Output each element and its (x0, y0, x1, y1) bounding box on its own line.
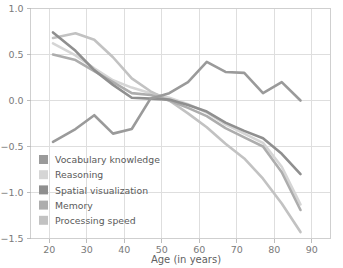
legend-swatch-vocabulary-knowledge (39, 155, 48, 164)
legend-label-spatial-visualization: Spatial visualization (55, 185, 148, 196)
x-tick-label: 30 (81, 244, 93, 255)
y-tick-label: −0.5 (0, 141, 23, 152)
x-tick-label: 70 (231, 244, 243, 255)
y-tick-label: −1.0 (0, 187, 23, 198)
x-axis-title: Age (in years) (151, 254, 221, 265)
x-tick-label: 50 (156, 244, 168, 255)
y-tick-label: 1.0 (8, 3, 23, 14)
legend-label-vocabulary-knowledge: Vocabulary knowledge (55, 154, 160, 165)
x-tick-label: 60 (193, 244, 205, 255)
x-tick-label: 80 (268, 244, 280, 255)
x-tick-label: 40 (118, 244, 130, 255)
legend-swatch-processing-speed (39, 216, 48, 225)
legend-label-reasoning: Reasoning (55, 169, 103, 180)
legend-label-processing-speed: Processing speed (55, 215, 136, 226)
legend-label-memory: Memory (55, 200, 93, 211)
chart-background (0, 0, 343, 268)
legend-swatch-reasoning (39, 170, 48, 179)
cognitive-aging-line-chart: 1.00.50.0−0.5−1.0−1.5 2030405060708090 A… (0, 0, 343, 268)
legend-swatch-spatial-visualization (39, 185, 48, 194)
legend-swatch-memory (39, 201, 48, 210)
chart-canvas: 1.00.50.0−0.5−1.0−1.5 2030405060708090 A… (0, 0, 343, 268)
y-tick-label: 0.0 (8, 95, 23, 106)
y-tick-label: −1.5 (0, 233, 23, 244)
x-tick-label: 20 (43, 244, 55, 255)
x-tick-label: 90 (306, 244, 318, 255)
y-tick-label: 0.5 (8, 49, 23, 60)
